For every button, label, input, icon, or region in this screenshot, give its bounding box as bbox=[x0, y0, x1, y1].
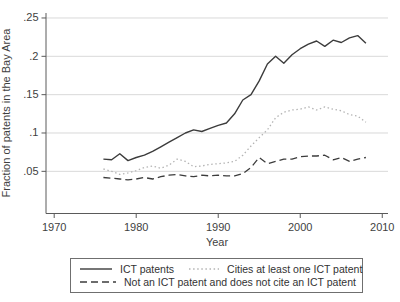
dashed-line-sample-icon bbox=[79, 279, 117, 285]
legend-row-2: Not an ICT patent and does not cite an I… bbox=[79, 275, 354, 288]
y-tick-label: .2 bbox=[29, 50, 38, 62]
legend-item-cites-ict-patent: Cities at least one ICT patent bbox=[188, 263, 362, 275]
series-line-cites-ict-patent bbox=[103, 107, 366, 174]
y-tick-label: .25 bbox=[23, 11, 38, 23]
legend-item-not-ict-no-cite: Not an ICT patent and does not cite an I… bbox=[79, 276, 356, 288]
figure-line-chart: .05.1.15.2.2519701980199020002010 Fracti… bbox=[0, 0, 400, 302]
legend: ICT patents Cities at least one ICT pate… bbox=[70, 258, 363, 293]
solid-line-sample-icon bbox=[79, 266, 113, 272]
x-tick-label: 1970 bbox=[42, 221, 66, 233]
y-tick-label: .15 bbox=[23, 88, 38, 100]
legend-label-not-ict-no-cite: Not an ICT patent and does not cite an I… bbox=[124, 276, 356, 288]
y-tick-label: .05 bbox=[23, 165, 38, 177]
legend-row-1: ICT patents Cities at least one ICT pate… bbox=[79, 262, 354, 275]
x-axis-title: Year bbox=[206, 236, 229, 248]
x-tick-label: 2010 bbox=[370, 221, 394, 233]
x-tick-label: 1990 bbox=[206, 221, 230, 233]
y-tick-label: .1 bbox=[29, 126, 38, 138]
dotted-line-sample-icon bbox=[188, 266, 220, 272]
x-tick-label: 2000 bbox=[288, 221, 312, 233]
legend-label-cites-ict-patent: Cities at least one ICT patent bbox=[227, 263, 362, 275]
x-tick-label: 1980 bbox=[124, 221, 148, 233]
y-axis-title: Fraction of patents in the Bay Area bbox=[0, 28, 12, 198]
line-chart: .05.1.15.2.2519701980199020002010 Fracti… bbox=[0, 0, 400, 252]
series-line-ict-patents bbox=[103, 36, 366, 161]
legend-item-ict-patents: ICT patents bbox=[79, 263, 174, 275]
legend-label-ict-patents: ICT patents bbox=[120, 263, 174, 275]
